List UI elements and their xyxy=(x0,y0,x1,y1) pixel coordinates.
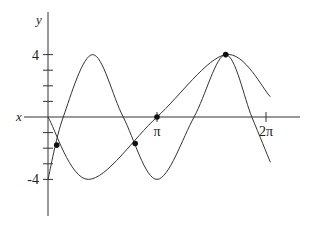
x-tick-label: 2π xyxy=(259,124,273,139)
data-point-marker xyxy=(154,114,160,120)
y-tick-label: -4 xyxy=(27,172,39,187)
chart: x y 4-4 π2π xyxy=(0,0,313,228)
data-point-marker xyxy=(132,141,138,147)
data-point-marker xyxy=(223,52,229,58)
x-axis-label: x xyxy=(15,109,22,124)
y-axis-label: y xyxy=(34,12,42,27)
x-tick-label: π xyxy=(153,124,160,139)
data-point-marker xyxy=(54,142,60,148)
y-tick-label: 4 xyxy=(32,48,39,63)
